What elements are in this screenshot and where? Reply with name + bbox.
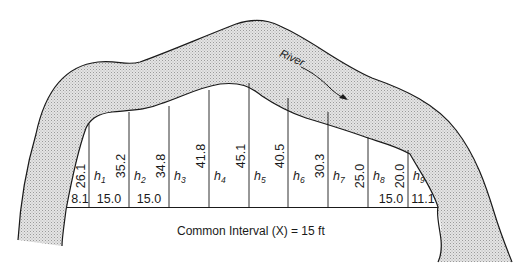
offset-value: 25.0 [353, 164, 367, 188]
interval-labels: 8.115.015.015.011.1 [71, 192, 434, 206]
offset-value: 26.1 [74, 164, 88, 188]
offset-value: 34.8 [154, 154, 168, 178]
offset-labels: 26.135.234.841.845.140.530.325.020.0 [74, 144, 407, 188]
offset-value: 20.0 [393, 164, 407, 188]
offset-area-diagram: 26.135.234.841.845.140.530.325.020.0 h1h… [0, 0, 532, 267]
offset-value: 40.5 [273, 144, 287, 168]
interval-value: 15.0 [379, 192, 403, 206]
interval-value: 15.0 [137, 192, 161, 206]
interval-value: 15.0 [97, 192, 121, 206]
interval-value: 11.1 [411, 192, 434, 206]
strip-labels: h1h2h3h4h5h6h7h8h9 [94, 169, 425, 185]
offset-value: 35.2 [114, 154, 128, 178]
offset-value: 45.1 [234, 144, 248, 168]
strip-label: h5 [254, 169, 266, 185]
strip-label: h8 [373, 169, 385, 185]
common-interval-caption: Common Interval (X) = 15 ft [177, 224, 325, 238]
strip-label: h1 [94, 169, 106, 185]
strip-label: h7 [333, 169, 345, 185]
strip-label: h3 [174, 169, 186, 185]
strip-label: h4 [214, 169, 226, 185]
strip-label: h6 [293, 169, 305, 185]
strip-label: h2 [134, 169, 146, 185]
offset-value: 41.8 [194, 144, 208, 168]
offset-value: 30.3 [313, 154, 327, 178]
interval-value: 8.1 [71, 192, 88, 206]
